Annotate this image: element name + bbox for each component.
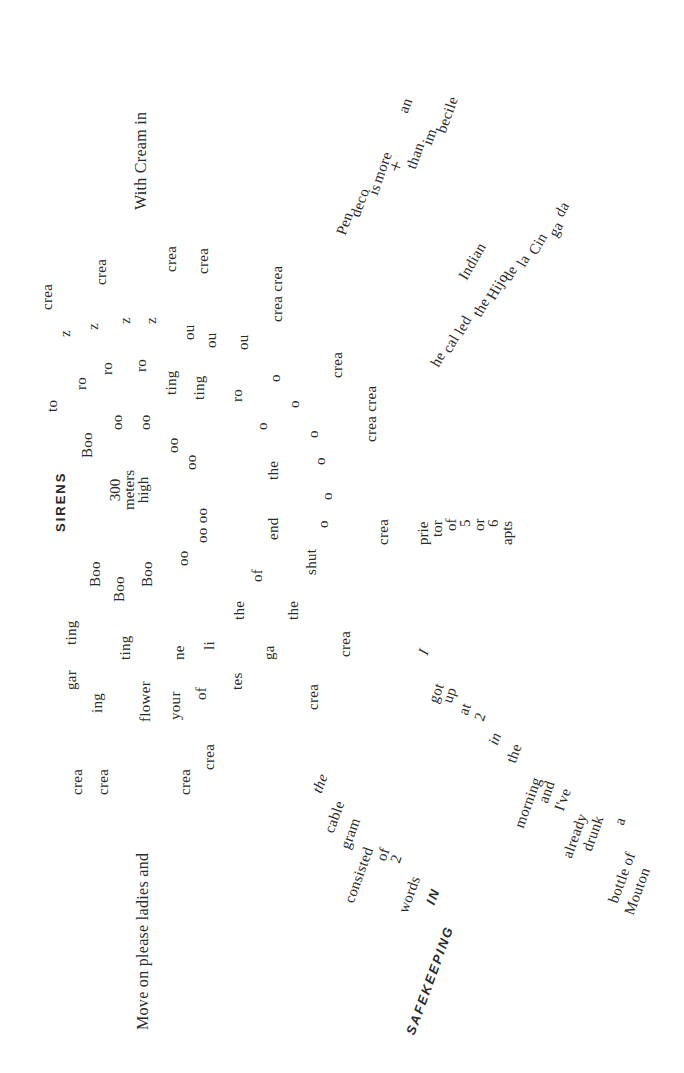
word-end: end	[266, 517, 281, 540]
word-in: IN	[424, 886, 442, 906]
word-o: o	[268, 374, 283, 382]
word-boo: Boo	[88, 561, 103, 587]
word-crea: crea	[338, 631, 353, 657]
word-ou: ou	[204, 332, 219, 348]
word: I	[416, 647, 432, 657]
word-oo: oo	[176, 550, 191, 566]
word: cal	[440, 332, 462, 355]
word: up	[440, 685, 459, 705]
word: than	[404, 141, 427, 172]
word-boo: Boo	[112, 576, 127, 602]
word-ing: ing	[90, 693, 105, 713]
word-ting: ting	[164, 370, 179, 395]
stack-line: apts	[500, 519, 514, 546]
word-ne: ne	[172, 645, 187, 660]
word-crea: crea	[40, 284, 55, 310]
word-crea: crea	[96, 769, 111, 795]
word-crea: crea	[306, 684, 321, 710]
word-to: to	[45, 400, 60, 412]
word-crea: crea	[330, 352, 345, 378]
word: Indian	[456, 240, 489, 282]
stack-line: meters	[122, 470, 136, 510]
stack-line: 6	[486, 519, 500, 546]
word-boo: Boo	[80, 432, 95, 458]
prietor-stack: prie tor of 5 or 6 apts	[416, 519, 514, 546]
word-shut: shut	[304, 549, 319, 575]
word-tes: tes	[230, 672, 245, 690]
stack-line: high	[136, 470, 150, 510]
word-oo: oo	[184, 454, 199, 470]
word-crea: crea	[376, 519, 391, 545]
stack-line: tor	[430, 519, 444, 546]
word: the	[504, 742, 525, 765]
word-crea: crea	[202, 744, 217, 770]
word: becile	[434, 95, 461, 135]
word: da	[552, 199, 572, 219]
stack-line: of	[444, 519, 458, 546]
word: an	[396, 96, 415, 115]
word: morning	[512, 775, 544, 830]
word-o: o	[287, 400, 302, 408]
word-crea: crea	[70, 769, 85, 795]
word-o: o	[306, 430, 321, 438]
line-with-cream: With Cream in	[133, 112, 149, 210]
word-flower: flower	[138, 681, 153, 722]
word-ting: ting	[64, 620, 79, 645]
word-ting: ting	[118, 635, 133, 660]
word: gram	[338, 816, 363, 851]
word-ro: ro	[74, 377, 89, 390]
word: la	[514, 252, 533, 269]
word: words	[396, 874, 423, 915]
word-z: z	[118, 317, 133, 324]
word-boo: Boo	[140, 561, 155, 587]
word: 2	[388, 853, 405, 865]
word-ro: ro	[100, 362, 115, 375]
word-o: o	[313, 457, 328, 465]
word: led	[452, 313, 475, 337]
word: a	[612, 815, 628, 827]
poem-page: Move on please ladies and With Cream in …	[0, 0, 684, 1073]
word-of: of	[194, 687, 209, 700]
word-oo: oo	[166, 437, 181, 453]
word-ro: ro	[134, 359, 149, 372]
word-ga: ga	[262, 645, 277, 660]
word-oo-oo: oo oo	[195, 508, 210, 543]
word: consisted	[342, 845, 376, 905]
word-safekeeping: SAFEKEEPING	[404, 924, 456, 1037]
word-z: z	[58, 330, 73, 337]
word-crea: crea	[164, 246, 179, 272]
word-gar: gar	[64, 670, 79, 690]
word-o: o	[255, 422, 270, 430]
word-your: your	[168, 691, 183, 720]
stack-line: 300	[108, 470, 122, 510]
word-the: the	[266, 461, 281, 480]
word-crea-crea: crea crea	[364, 386, 379, 442]
word: he	[428, 349, 448, 369]
word-ou: ou	[236, 334, 251, 350]
word-crea-crea: crea crea	[270, 266, 285, 322]
word-of: of	[250, 569, 265, 582]
word-the: the	[286, 601, 301, 620]
stack-line: or	[472, 519, 486, 546]
word: 2	[472, 711, 489, 723]
word: the	[470, 295, 493, 319]
height-stack: 300 meters high	[108, 470, 150, 510]
word-sirens: SIRENS	[54, 472, 67, 532]
stack-line: prie	[416, 519, 430, 546]
word-z: z	[86, 323, 101, 330]
word-ou: ou	[182, 324, 197, 340]
line-move-on: Move on please ladies and	[135, 853, 151, 1030]
word-o: o	[320, 492, 335, 500]
stack-line: 5	[458, 519, 472, 546]
word-the: the	[232, 601, 247, 620]
word-crea: crea	[178, 769, 193, 795]
word-oo: oo	[110, 414, 125, 430]
word-ro: ro	[230, 389, 245, 402]
word-o: o	[316, 520, 331, 528]
word: in	[486, 730, 504, 747]
word: Cin	[526, 230, 550, 257]
word-z: z	[144, 317, 159, 324]
word-oo: oo	[138, 414, 153, 430]
word-crea: crea	[196, 248, 211, 274]
word-ting: ting	[192, 375, 207, 400]
